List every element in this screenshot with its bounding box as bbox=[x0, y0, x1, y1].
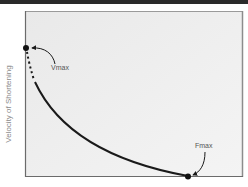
plot-area bbox=[26, 12, 243, 177]
fmax-label: Fmax bbox=[195, 142, 213, 149]
vmax-point bbox=[23, 45, 29, 51]
fmax-point bbox=[185, 174, 191, 180]
vmax-label: Vmax bbox=[51, 64, 69, 71]
force-velocity-chart bbox=[0, 0, 248, 187]
